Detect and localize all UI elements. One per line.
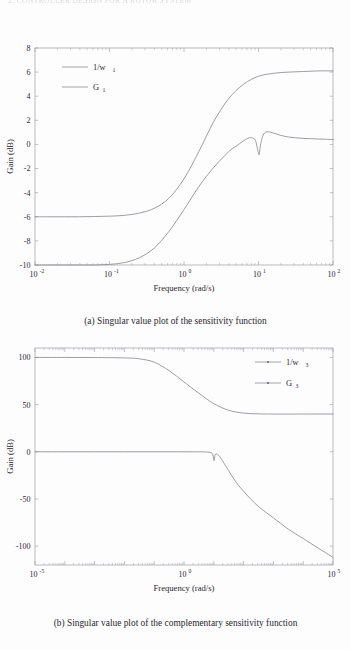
x-tick-label-base: 10	[178, 570, 186, 579]
x-tick-label: 10-2	[29, 268, 44, 279]
legend-label: 1/w	[286, 358, 300, 367]
legend-label-subscript: 1	[103, 87, 106, 93]
x-tick-label-exp: 0	[189, 268, 192, 274]
plot-frame	[35, 48, 333, 265]
x-tick-label-base: 10	[29, 270, 37, 279]
complementary-sensitivity-function-plot: 100500-50-10010-5100105Frequency (rad/s)…	[0, 338, 351, 610]
y-axis-title: Gain (dB)	[5, 139, 15, 174]
legend-item[interactable]: G1	[62, 83, 106, 93]
y-tick-label: -50	[20, 495, 31, 504]
figure-b-caption: (b) Singular value plot of the complemen…	[0, 618, 351, 628]
figure-b: 100500-50-10010-5100105Frequency (rad/s)…	[0, 338, 351, 638]
x-tick-label-exp: -1	[114, 268, 119, 274]
sensitivity-function-plot: 86420-2-4-6-8-1010-210-1100101102Frequen…	[0, 38, 351, 310]
y-tick-label: 100	[19, 353, 31, 362]
x-tick-label-exp: 0	[189, 568, 192, 574]
y-tick-label: 4	[27, 92, 31, 101]
x-axis-title: Frequency (rad/s)	[154, 583, 215, 593]
y-tick-label: 6	[27, 68, 31, 77]
legend-label-subscript: 1	[113, 67, 116, 73]
x-tick-label: 10-5	[29, 568, 44, 579]
y-axis-title: Gain (dB)	[5, 439, 15, 474]
figure-a: 86420-2-4-6-8-1010-210-1100101102Frequen…	[0, 38, 351, 334]
x-tick-label-exp: 2	[338, 268, 341, 274]
y-tick-label: 2	[27, 116, 31, 125]
y-tick-label: -100	[16, 542, 31, 551]
x-tick-label: 101	[253, 268, 266, 279]
x-tick-label-exp: -2	[40, 268, 45, 274]
running-header: 2. CONTROLLER DESIGN FOR A ROTOR SYSTEM	[8, 0, 343, 6]
legend-label: G	[93, 83, 99, 92]
legend-label-subscript: 3	[306, 362, 309, 368]
y-tick-label: 0	[27, 448, 31, 457]
y-tick-label: -2	[24, 164, 31, 173]
x-tick-label: 105	[327, 568, 340, 579]
y-tick-label: -6	[24, 213, 31, 222]
legend-label-subscript: 3	[296, 383, 299, 389]
curve-g-1	[35, 132, 333, 265]
x-tick-label-base: 10	[178, 270, 186, 279]
legend-label: G	[286, 379, 292, 388]
y-tick-label: -8	[24, 237, 31, 246]
x-tick-label-exp: 5	[338, 568, 341, 574]
legend-item[interactable]: 1/w1	[62, 63, 116, 73]
x-tick-label: 100	[178, 268, 191, 279]
x-tick-label-base: 10	[104, 270, 112, 279]
legend: 1/w1G1	[62, 63, 116, 93]
x-tick-label: 10-1	[104, 268, 119, 279]
x-tick-label-base: 10	[327, 570, 335, 579]
x-tick-label-base: 10	[253, 270, 261, 279]
y-tick-label: 0	[27, 140, 31, 149]
plot-b-container: 100500-50-10010-5100105Frequency (rad/s)…	[0, 338, 351, 610]
x-tick-label: 100	[178, 568, 191, 579]
figure-a-caption: (a) Singular value plot of the sensitivi…	[0, 316, 351, 326]
y-tick-label: 50	[23, 401, 31, 410]
x-tick-label-exp: -5	[40, 568, 45, 574]
x-axis-title: Frequency (rad/s)	[154, 283, 215, 293]
legend-marker-dot	[267, 382, 269, 384]
curve-g-3	[35, 452, 333, 558]
legend-marker-dot	[267, 361, 269, 363]
x-tick-label-base: 10	[327, 270, 335, 279]
curve-1-w-1	[35, 71, 333, 217]
y-tick-label: -4	[24, 189, 31, 198]
page-canvas: 2. CONTROLLER DESIGN FOR A ROTOR SYSTEM …	[0, 0, 351, 649]
legend: 1/w3G3	[255, 358, 309, 389]
legend-label: 1/w	[93, 63, 107, 72]
x-tick-label: 102	[327, 268, 340, 279]
x-tick-label-exp: 1	[263, 268, 266, 274]
y-tick-label: 8	[27, 44, 31, 53]
plot-a-container: 86420-2-4-6-8-1010-210-1100101102Frequen…	[0, 38, 351, 310]
x-tick-label-base: 10	[29, 570, 37, 579]
legend-item[interactable]: 1/w3	[255, 358, 309, 368]
legend-item[interactable]: G3	[255, 379, 299, 389]
